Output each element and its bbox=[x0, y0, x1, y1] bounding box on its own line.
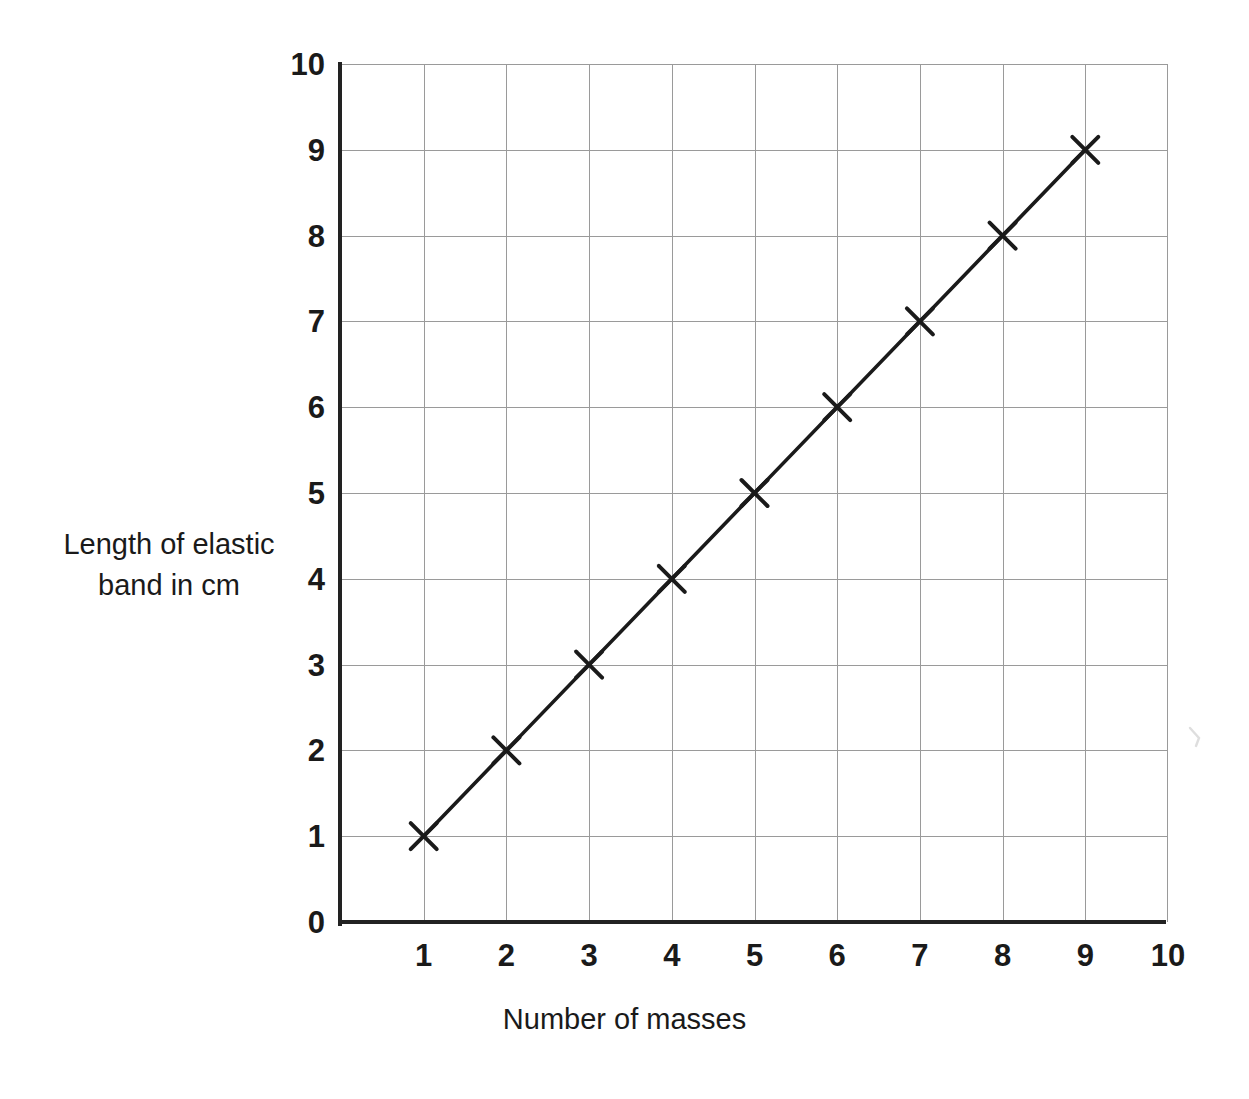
gridline-horizontal bbox=[341, 321, 1168, 322]
y-axis-tick-label: 1 bbox=[308, 821, 325, 852]
gridline-horizontal bbox=[341, 836, 1168, 837]
y-axis-title-line-1: Length of elastic bbox=[38, 524, 300, 565]
x-axis-line bbox=[338, 920, 1166, 924]
y-axis-title-line-2: band in cm bbox=[38, 565, 300, 606]
y-axis-tick-label: 4 bbox=[308, 563, 325, 594]
x-axis-tick-label: 8 bbox=[994, 940, 1011, 971]
x-axis-tick-labels: 12345678910 bbox=[0, 940, 1249, 985]
plot-area bbox=[341, 64, 1168, 922]
y-axis-title: Length of elastic band in cm bbox=[38, 524, 300, 606]
x-axis-tick-label: 5 bbox=[746, 940, 763, 971]
y-axis-line bbox=[338, 62, 342, 926]
x-axis-tick-label: 1 bbox=[415, 940, 432, 971]
x-axis-tick-label: 10 bbox=[1151, 940, 1185, 971]
scan-artifact bbox=[1188, 726, 1206, 748]
gridline-horizontal bbox=[341, 665, 1168, 666]
gridline-horizontal bbox=[341, 493, 1168, 494]
x-axis-title: Number of masses bbox=[0, 1003, 1249, 1036]
gridline-horizontal bbox=[341, 236, 1168, 237]
x-axis-tick-label: 4 bbox=[663, 940, 680, 971]
chart-figure: 012345678910 12345678910 Length of elast… bbox=[0, 0, 1249, 1099]
x-axis-tick-label: 7 bbox=[911, 940, 928, 971]
x-axis-tick-label: 9 bbox=[1077, 940, 1094, 971]
x-axis-tick-label: 6 bbox=[829, 940, 846, 971]
y-axis-tick-label: 6 bbox=[308, 392, 325, 423]
y-axis-tick-label: 0 bbox=[308, 907, 325, 938]
y-axis-tick-label: 9 bbox=[308, 134, 325, 165]
y-axis-tick-label: 2 bbox=[308, 735, 325, 766]
y-axis-tick-label: 5 bbox=[308, 478, 325, 509]
gridline-horizontal bbox=[341, 407, 1168, 408]
y-axis-tick-label: 7 bbox=[308, 306, 325, 337]
y-axis-tick-label: 3 bbox=[308, 649, 325, 680]
gridline-horizontal bbox=[341, 579, 1168, 580]
gridline-horizontal bbox=[341, 150, 1168, 151]
y-axis-tick-label: 8 bbox=[308, 220, 325, 251]
x-axis-tick-label: 2 bbox=[498, 940, 515, 971]
x-axis-tick-label: 3 bbox=[580, 940, 597, 971]
gridline-horizontal bbox=[341, 750, 1168, 751]
y-axis-tick-label: 10 bbox=[291, 49, 325, 80]
